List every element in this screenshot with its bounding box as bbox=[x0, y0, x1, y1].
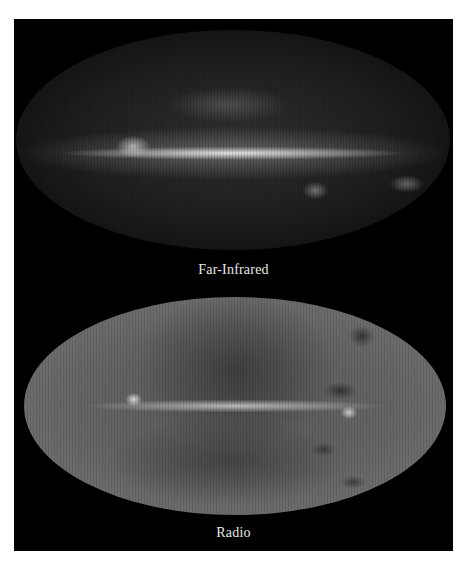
far-infrared-caption: Far-Infrared bbox=[14, 262, 453, 278]
radio-caption: Radio bbox=[14, 525, 453, 541]
radio-sky-map bbox=[24, 297, 446, 515]
figure-panel: Far-Infrared Radio bbox=[14, 19, 453, 551]
far-infrared-sky-map bbox=[16, 30, 450, 250]
page: Far-Infrared Radio bbox=[0, 0, 466, 565]
